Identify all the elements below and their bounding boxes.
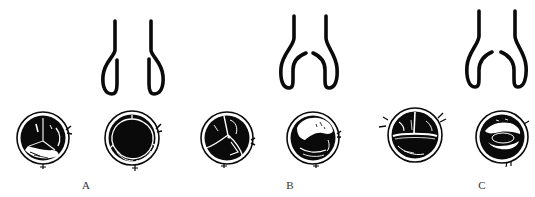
valve-a2-view [105,111,162,171]
valve-b2-view [287,112,341,168]
valve-c2-view [476,111,529,167]
panel-label-c: C [472,178,492,192]
figure-drawing [0,0,535,197]
valve-morphology-figure: A B C [0,0,535,197]
panel-a [17,21,163,171]
outflow-profile-c [467,11,526,87]
valve-b1-view [201,112,255,168]
outflow-profile-a [103,21,163,94]
valve-a1-view [17,112,72,169]
panel-c [379,11,529,167]
outflow-profile-b [281,16,337,88]
valve-c1-view [379,108,446,162]
panel-label-b: B [280,178,300,192]
panel-b [201,16,341,168]
panel-label-a: A [76,178,96,192]
